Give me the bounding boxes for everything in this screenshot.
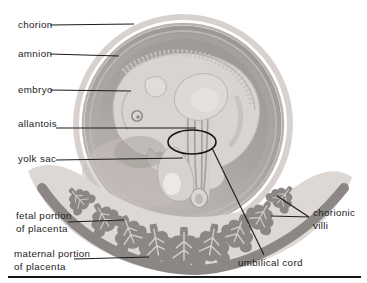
label-text-allantois: allantois: [18, 118, 57, 129]
label-text-chorion: chorion: [18, 19, 53, 30]
flank-fold-highlight: [191, 88, 219, 112]
label-text-umbilical-cord: umbilical cord: [238, 257, 303, 268]
under-body-shadow: [114, 136, 166, 168]
cord-end-bulb-core: [195, 194, 203, 204]
label-text-maternal-portion: maternal portionof placenta: [14, 248, 90, 272]
label-chorion: chorion: [18, 19, 134, 30]
leader-line-chorion: [50, 24, 134, 25]
label-text-embryo: embryo: [18, 84, 53, 95]
figure-embryo-diagram: chorionamnionembryoallantoisyolk sacfeta…: [0, 0, 367, 283]
embryo-eye-pupil: [136, 115, 140, 119]
label-text-yolk-sac: yolk sac: [18, 153, 56, 164]
limb-bud: [145, 77, 166, 98]
embryo-diagram-svg: chorionamnionembryoallantoisyolk sacfeta…: [0, 0, 367, 283]
label-text-amnion: amnion: [18, 48, 52, 59]
yolk-sac-highlight: [163, 173, 181, 195]
